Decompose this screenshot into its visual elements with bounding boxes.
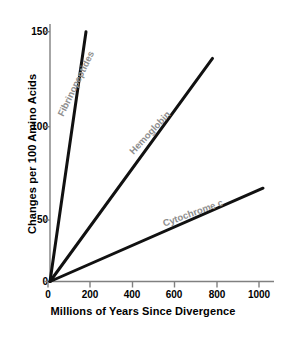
series-line-cytochrome-c (50, 188, 263, 281)
series-line-hemoglobin (50, 58, 213, 281)
series-line-fibrinopeptides (50, 32, 86, 282)
plot-area (0, 0, 284, 344)
molecular-clock-chart: Changes per 100 Amino Acids Millions of … (0, 0, 284, 344)
